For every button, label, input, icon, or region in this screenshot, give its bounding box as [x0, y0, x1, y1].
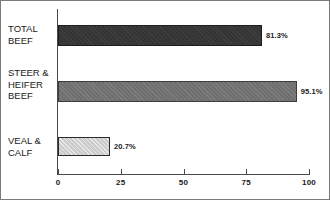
bar-steer-heifer-beef	[58, 81, 297, 102]
x-axis-tick-label: 25	[116, 178, 125, 187]
x-axis-tick-mark	[121, 169, 122, 175]
y-axis-line	[57, 9, 58, 175]
x-axis-tick-label: 100	[302, 178, 316, 187]
bar-veal-calf	[58, 137, 110, 156]
x-axis-tick-mark	[309, 169, 310, 175]
bar-value-steer-heifer-beef: 95.1%	[301, 87, 323, 96]
x-axis-tick-label: 75	[242, 178, 251, 187]
x-axis-tick-mark	[246, 169, 247, 175]
bar-chart-figure: TOTAL BEEF STEER & HEIFER BEEF VEAL & CA…	[0, 0, 330, 200]
bar-value-total-beef: 81.3%	[266, 31, 288, 40]
plot-area: TOTAL BEEF STEER & HEIFER BEEF VEAL & CA…	[1, 1, 330, 200]
bar-total-beef	[58, 25, 262, 46]
x-axis-tick-mark	[184, 169, 185, 175]
x-axis-tick-label: 0	[56, 178, 61, 187]
category-label-veal-calf: VEAL & CALF	[8, 135, 56, 158]
bar-value-veal-calf: 20.7%	[114, 142, 136, 151]
category-label-steer-heifer-beef: STEER & HEIFER BEEF	[8, 67, 56, 102]
x-axis-tick-mark	[58, 169, 59, 175]
x-axis-tick-label: 50	[179, 178, 188, 187]
category-label-total-beef: TOTAL BEEF	[8, 23, 56, 46]
